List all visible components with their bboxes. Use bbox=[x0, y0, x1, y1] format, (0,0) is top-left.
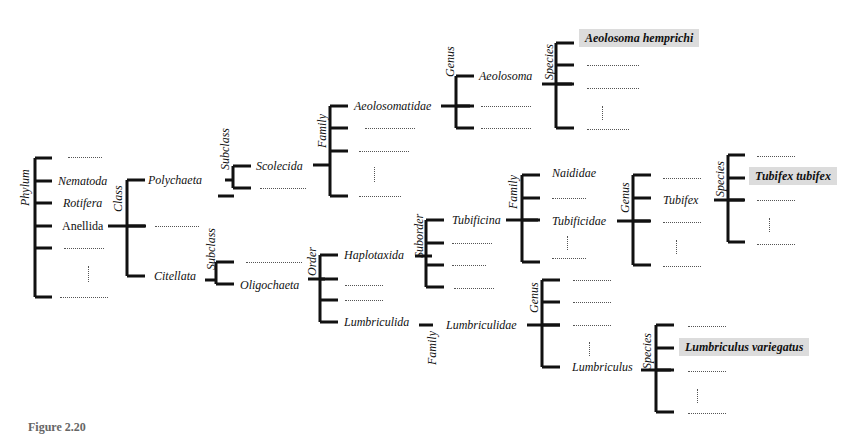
rank-label-order: Order bbox=[306, 247, 319, 276]
placeholder-dots bbox=[64, 248, 104, 249]
placeholder-dots bbox=[663, 266, 701, 267]
placeholder-dots bbox=[573, 302, 611, 303]
placeholder-dots bbox=[452, 265, 486, 266]
rank-label-suborder: Suborder bbox=[413, 214, 426, 258]
rank-label-species-3: Species bbox=[641, 333, 654, 369]
taxon-lumbriculidae: Lumbriculidae bbox=[446, 318, 517, 332]
taxon-naididae: Naididae bbox=[552, 166, 596, 180]
taxon-aeolosomatidae: Aeolosomatidae bbox=[354, 99, 431, 113]
rank-label-family-1: Family bbox=[316, 114, 329, 148]
taxon-scolecida: Scolecida bbox=[256, 159, 303, 173]
placeholder-dots bbox=[587, 129, 629, 130]
taxon-haplotaxida: Haplotaxida bbox=[344, 248, 404, 262]
placeholder-dots bbox=[359, 196, 401, 197]
taxon-tubificina: Tubificina bbox=[452, 213, 501, 227]
placeholder-dots bbox=[757, 244, 795, 245]
vertical-ellipsis bbox=[589, 342, 590, 356]
placeholder-dots bbox=[573, 325, 611, 326]
rank-label-family-2: Family bbox=[507, 175, 520, 209]
vertical-ellipsis bbox=[602, 106, 603, 120]
figure-caption: Figure 2.20 bbox=[28, 420, 86, 435]
vertical-ellipsis bbox=[567, 236, 568, 250]
rank-label-phylum: Phylum bbox=[19, 169, 32, 206]
rank-label-genus-3: Genus bbox=[528, 282, 541, 313]
placeholder-dots bbox=[68, 157, 102, 158]
taxon-oligochaeta: Oligochaeta bbox=[240, 278, 299, 292]
taxon-lumbriculida: Lumbriculida bbox=[344, 315, 409, 329]
placeholder-dots bbox=[663, 178, 701, 179]
placeholder-dots bbox=[552, 258, 586, 259]
rank-label-genus-1: Genus bbox=[444, 46, 457, 77]
placeholder-dots bbox=[663, 222, 701, 223]
placeholder-dots bbox=[552, 198, 586, 199]
placeholder-dots bbox=[481, 128, 531, 129]
placeholder-dots bbox=[688, 413, 726, 414]
vertical-ellipsis bbox=[88, 266, 89, 282]
rank-label-species-2: Species bbox=[714, 161, 727, 197]
taxon-nematoda: Nematoda bbox=[58, 174, 107, 188]
placeholder-dots bbox=[359, 151, 409, 152]
placeholder-dots bbox=[155, 226, 199, 227]
rank-label-subclass-1: Subclass bbox=[219, 128, 232, 170]
highlighted-species-aeolosoma-hemprichi: Aeolosoma hemprichi bbox=[579, 29, 699, 47]
highlighted-species-tubifex-tubifex: Tubifex tubifex bbox=[749, 167, 837, 185]
placeholder-dots bbox=[573, 280, 611, 281]
placeholder-dots bbox=[452, 243, 492, 244]
rank-label-class: Class bbox=[112, 185, 125, 212]
taxon-tubificidae: Tubificidae bbox=[552, 214, 606, 228]
rank-label-species-1: Species bbox=[543, 44, 556, 80]
placeholder-dots bbox=[481, 106, 531, 107]
placeholder-dots bbox=[688, 371, 726, 372]
placeholder-dots bbox=[260, 188, 306, 189]
rank-label-subclass-2: Subclass bbox=[205, 228, 218, 270]
vertical-ellipsis bbox=[769, 218, 770, 232]
vertical-ellipsis bbox=[697, 389, 698, 403]
taxon-anellida: Anellida bbox=[62, 219, 103, 233]
placeholder-dots bbox=[345, 300, 383, 301]
placeholder-dots bbox=[587, 88, 639, 89]
placeholder-dots bbox=[345, 285, 383, 286]
rank-label-family-3: Family bbox=[426, 331, 439, 365]
vertical-ellipsis bbox=[676, 240, 677, 254]
vertical-ellipsis bbox=[374, 167, 375, 182]
placeholder-dots bbox=[757, 200, 795, 201]
taxon-tubifex: Tubifex bbox=[663, 193, 698, 207]
taxon-citellata: Citellata bbox=[154, 269, 196, 283]
taxon-polychaeta: Polychaeta bbox=[148, 173, 202, 187]
placeholder-dots bbox=[365, 128, 415, 129]
placeholder-dots bbox=[60, 297, 108, 298]
taxon-rotifera: Rotifera bbox=[63, 196, 102, 210]
placeholder-dots bbox=[587, 65, 639, 66]
taxon-lumbriculus: Lumbriculus bbox=[572, 360, 633, 374]
placeholder-dots bbox=[454, 288, 494, 289]
taxon-aeolosoma: Aeolosoma bbox=[479, 69, 532, 83]
rank-label-genus-2: Genus bbox=[619, 182, 632, 213]
placeholder-dots bbox=[246, 262, 302, 263]
highlighted-species-lumbriculus-variegatus: Lumbriculus variegatus bbox=[679, 338, 809, 356]
placeholder-dots bbox=[688, 326, 726, 327]
placeholder-dots bbox=[757, 156, 795, 157]
